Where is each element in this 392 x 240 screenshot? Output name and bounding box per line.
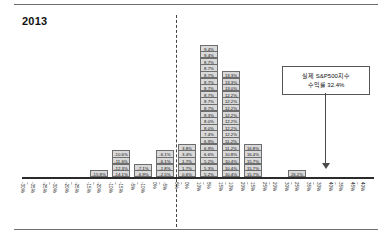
histogram-cell: 10.4% xyxy=(222,170,240,177)
histogram-cell: -15.8% xyxy=(90,170,108,177)
x-axis-tick-label: 25%~30% xyxy=(283,182,299,228)
histogram-plot: -15.8%-14.1%-12.3%-11.6%-10.6%-6.9%-7.1%… xyxy=(22,24,374,179)
x-axis-tick-label: 5%~10% xyxy=(195,182,211,228)
x-axis-tick-label: -30%~-25% xyxy=(41,182,57,228)
x-axis-tick-label: -15%~-10% xyxy=(107,182,123,228)
histogram-column: 5.2%5.3%5.2%6.6%6.9%6.9%7.4%8.0%8.0%8.3%… xyxy=(200,45,218,177)
x-axis-tick-label: -25%~-20% xyxy=(63,182,79,228)
axis-baseline xyxy=(22,177,374,179)
histogram-cell: 5.2% xyxy=(200,170,218,177)
top-divider-rule xyxy=(14,4,378,5)
x-axis-tick-label: -35%~-30% xyxy=(19,182,35,228)
x-axis-tick-label: 35%~40% xyxy=(327,182,343,228)
callout-line-1: 실제 S&P500지수 xyxy=(302,72,350,81)
bottom-divider-rule xyxy=(14,229,378,230)
callout-line-2: 수익률 32.4% xyxy=(308,81,345,90)
x-axis-tick-label: 15%~20% xyxy=(239,182,255,228)
x-axis-tick-label: 0%~5% xyxy=(173,182,189,228)
histogram-cell: 15.7% xyxy=(244,170,262,177)
x-axis-tick-label: 10%~15% xyxy=(217,182,233,228)
histogram-cell: -14.1% xyxy=(112,170,130,177)
histogram-column: 15.7%15.7%15.7%16.4%16.8% xyxy=(244,144,262,177)
callout-arrow-stem xyxy=(325,93,326,165)
histogram-column: 0.6%1.7%1.7%3.4%3.8% xyxy=(178,144,196,177)
histogram-column: 26.2% xyxy=(288,171,306,178)
histogram-cell: -6.9% xyxy=(134,170,152,177)
x-axis-tick-label: -20%~-15% xyxy=(85,182,101,228)
histogram-cell: 26.2% xyxy=(288,170,306,177)
histogram-column: 10.4%10.4%10.4%10.8%11.2%11.2%12.2%12.2%… xyxy=(222,72,240,178)
histogram-column: -2.5%-1.8%-6.1%-6.1% xyxy=(156,151,174,177)
x-axis-tick-label: 40%~45% xyxy=(349,182,365,228)
histogram-column: -15.8% xyxy=(90,171,108,178)
x-axis-tick-label: 30%~35% xyxy=(305,182,321,228)
chart-page: 2013 -15.8%-14.1%-12.3%-11.6%-10.6%-6.9%… xyxy=(0,0,392,240)
x-axis-tick-label: 20%~25% xyxy=(261,182,277,228)
histogram-cell: -2.5% xyxy=(156,170,174,177)
callout-arrow-head xyxy=(322,163,330,169)
x-axis-tick-label: -5%~0% xyxy=(151,182,167,228)
x-axis-tick-label: -10%~-5% xyxy=(129,182,145,228)
histogram-column: -14.1%-12.3%-11.6%-10.6% xyxy=(112,151,130,177)
histogram-column: -6.9%-7.1% xyxy=(134,164,152,177)
annotation-callout: 실제 S&P500지수 수익률 32.4% xyxy=(282,66,370,95)
histogram-cell: 0.6% xyxy=(178,170,196,177)
